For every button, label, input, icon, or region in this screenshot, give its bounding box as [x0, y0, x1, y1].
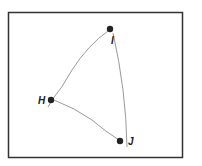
point-j — [117, 138, 123, 144]
triangle-diagram: I H J — [0, 0, 202, 166]
label-j: J — [128, 136, 134, 147]
point-h — [48, 97, 54, 103]
label-h: H — [38, 95, 46, 106]
point-i — [107, 26, 113, 32]
label-i: I — [111, 35, 114, 46]
diagram-frame — [9, 13, 183, 158]
